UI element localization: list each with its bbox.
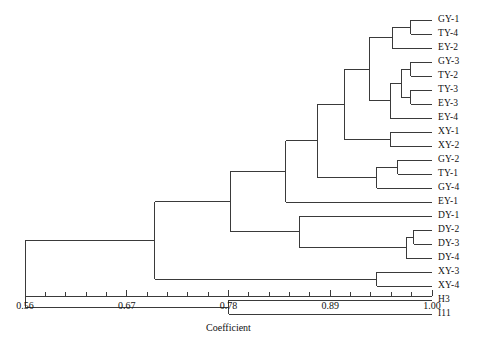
dendrogram-canvas — [0, 0, 481, 351]
leaf-label: EY-1 — [438, 196, 458, 206]
leaf-label: TY-1 — [438, 168, 458, 178]
leaf-label: EY-4 — [438, 112, 458, 122]
leaf-label: GY-2 — [438, 154, 459, 164]
leaf-label: DY-4 — [438, 252, 459, 262]
axis-tick-label: 0.56 — [16, 300, 34, 311]
leaf-label: XY-2 — [438, 140, 459, 150]
leaf-label: TY-4 — [438, 28, 458, 38]
leaf-label: TY-3 — [438, 84, 458, 94]
leaf-label: EY-3 — [438, 98, 458, 108]
dendrogram-figure: GY-1TY-4EY-2GY-3TY-2TY-3EY-3EY-4XY-1XY-2… — [0, 0, 481, 351]
axis-tick-label: 0.67 — [118, 300, 136, 311]
leaf-label: TY-2 — [438, 70, 458, 80]
leaf-label: DY-2 — [438, 224, 459, 234]
leaf-label: XY-1 — [438, 126, 459, 136]
axis-tick-label: 1.00 — [423, 300, 441, 311]
leaf-label: GY-4 — [438, 182, 459, 192]
leaf-label: DY-3 — [438, 238, 459, 248]
leaf-label: XY-3 — [438, 266, 459, 276]
axis-tick-label: 0.89 — [322, 300, 340, 311]
leaf-label: EY-2 — [438, 42, 458, 52]
leaf-label: DY-1 — [438, 210, 459, 220]
axis-title: Coefficient — [206, 322, 251, 333]
axis-tick-label: 0.78 — [220, 300, 238, 311]
leaf-label: GY-1 — [438, 14, 459, 24]
leaf-label: XY-4 — [438, 280, 459, 290]
leaf-label: GY-3 — [438, 56, 459, 66]
